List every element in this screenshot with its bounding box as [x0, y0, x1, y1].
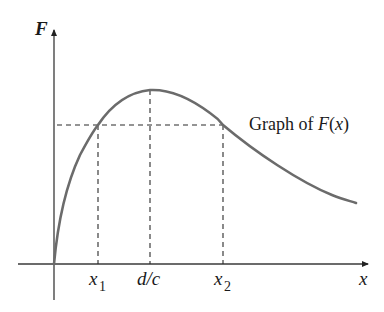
dc-label: d/c	[137, 268, 161, 289]
curve-label-close: )	[343, 114, 349, 135]
curve-label: Graph of F(x)	[249, 114, 349, 135]
x-axis-label: x	[358, 268, 368, 289]
curve-label-prefix: Graph of	[249, 114, 318, 134]
curve-label-var: x	[334, 114, 343, 134]
x1-subscript: 1	[99, 279, 106, 294]
y-axis-label: F	[34, 18, 48, 39]
function-graph: F x x 1 d/c x 2 Graph of F(x)	[0, 0, 384, 312]
tick-x1: x 1	[88, 268, 106, 294]
tick-x2: x 2	[213, 268, 231, 294]
x1-label: x	[88, 268, 98, 289]
x2-label: x	[213, 268, 223, 289]
x2-subscript: 2	[224, 279, 231, 294]
guide-lines	[57, 90, 223, 264]
